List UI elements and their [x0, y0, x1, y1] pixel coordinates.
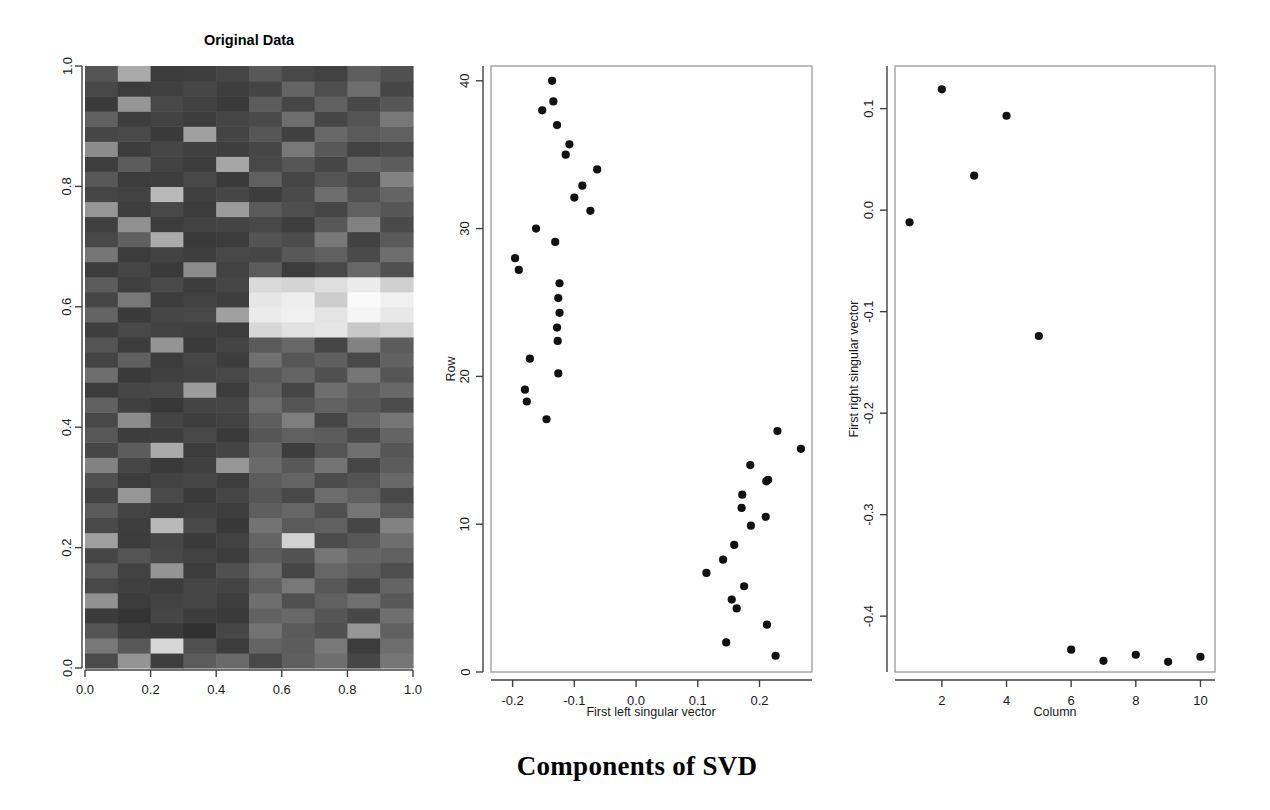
heatmap-cell: [347, 412, 380, 428]
data-point: [1132, 651, 1140, 659]
heatmap-cell: [282, 472, 315, 488]
heatmap-cell: [315, 201, 348, 217]
data-point: [570, 193, 578, 201]
heatmap-cell: [249, 66, 282, 82]
heatmap-cell: [216, 337, 249, 353]
heatmap-cell: [347, 247, 380, 263]
heatmap-cell: [282, 638, 315, 654]
heatmap-cell: [282, 232, 315, 248]
heatmap-cell: [315, 96, 348, 112]
heatmap-cell: [282, 533, 315, 549]
heatmap-cell: [249, 593, 282, 609]
heatmap-cell: [151, 247, 184, 263]
heatmap-cell: [380, 337, 413, 353]
heatmap-cell: [315, 427, 348, 443]
y-tick-label: 10: [458, 517, 473, 531]
data-point: [554, 369, 562, 377]
heatmap-cell: [315, 578, 348, 594]
heatmap-cell: [85, 96, 118, 112]
heatmap-cell: [85, 502, 118, 518]
y-tick-label: -0.1: [862, 300, 877, 322]
heatmap-x-tick-label: 0.0: [76, 682, 94, 697]
heatmap-cell: [85, 653, 118, 669]
data-point: [549, 97, 557, 105]
heatmap-cell: [216, 277, 249, 293]
heatmap-cell: [183, 518, 216, 534]
data-point: [586, 207, 594, 215]
data-point: [730, 541, 738, 549]
heatmap-cell: [216, 186, 249, 202]
heatmap-cell: [347, 382, 380, 398]
data-point: [747, 522, 755, 530]
heatmap-cell: [216, 81, 249, 97]
heatmap-cell: [315, 457, 348, 473]
heatmap-cell: [249, 653, 282, 669]
data-point: [532, 224, 540, 232]
heatmap-cell: [216, 638, 249, 654]
heatmap-cell: [85, 487, 118, 503]
heatmap-cell: [85, 638, 118, 654]
heatmap-cell: [118, 367, 151, 383]
heatmap-cell: [249, 171, 282, 187]
heatmap-cell: [380, 518, 413, 534]
data-point: [746, 461, 754, 469]
heatmap-cell: [315, 608, 348, 624]
heatmap-cell: [118, 578, 151, 594]
y-tick-label: 30: [458, 221, 473, 235]
heatmap-cell: [85, 186, 118, 202]
heatmap-cell: [85, 608, 118, 624]
heatmap-cell: [380, 171, 413, 187]
heatmap-cell: [347, 472, 380, 488]
heatmap-cell: [315, 593, 348, 609]
heatmap-cell: [118, 427, 151, 443]
heatmap-cell: [216, 593, 249, 609]
heatmap-cell: [282, 247, 315, 263]
heatmap-cell: [249, 156, 282, 172]
heatmap-cell: [151, 608, 184, 624]
heatmap-cell: [347, 307, 380, 323]
heatmap-cell: [151, 292, 184, 308]
heatmap-cell: [151, 412, 184, 428]
heatmap-cell: [380, 653, 413, 669]
data-point: [722, 638, 730, 646]
heatmap-cell: [85, 262, 118, 278]
heatmap-cell: [216, 608, 249, 624]
heatmap-cell: [151, 593, 184, 609]
heatmap-cell: [151, 337, 184, 353]
heatmap-cell: [118, 232, 151, 248]
heatmap-cell: [249, 608, 282, 624]
heatmap-cell: [315, 81, 348, 97]
heatmap-cell: [380, 502, 413, 518]
heatmap-cell: [118, 472, 151, 488]
data-point: [702, 569, 710, 577]
data-point: [762, 513, 770, 521]
heatmap-cell: [347, 352, 380, 368]
heatmap-cell: [282, 412, 315, 428]
heatmap-cell: [151, 201, 184, 217]
heatmap-cell: [183, 141, 216, 157]
heatmap-cell: [315, 653, 348, 669]
left-vector-ylabel: Row: [444, 356, 458, 382]
data-point: [542, 415, 550, 423]
data-point: [553, 121, 561, 129]
heatmap-cell: [315, 337, 348, 353]
heatmap-cell: [249, 457, 282, 473]
heatmap-cell: [216, 247, 249, 263]
heatmap-cell: [118, 126, 151, 142]
heatmap-cell: [151, 307, 184, 323]
heatmap-cell: [380, 593, 413, 609]
heatmap-cell: [282, 518, 315, 534]
heatmap-cell: [249, 397, 282, 413]
heatmap-cell: [151, 186, 184, 202]
heatmap-cell: [380, 382, 413, 398]
heatmap-cell: [347, 141, 380, 157]
heatmap-cells: [85, 66, 414, 669]
heatmap-cell: [85, 578, 118, 594]
heatmap-cell: [249, 533, 282, 549]
data-point: [538, 106, 546, 114]
heatmap-cell: [249, 277, 282, 293]
heatmap-cell: [151, 563, 184, 579]
heatmap-cell: [118, 217, 151, 233]
heatmap-cell: [282, 171, 315, 187]
heatmap-cell: [249, 487, 282, 503]
